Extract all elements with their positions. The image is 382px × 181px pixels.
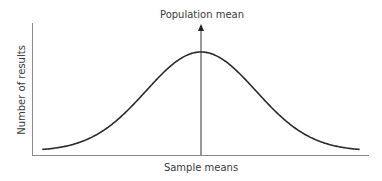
population-mean-label: Population mean (160, 9, 244, 20)
y-axis-label: Number of results (16, 45, 27, 135)
x-axis-label: Sample means (164, 162, 238, 173)
bell-curve-diagram: Population mean Sample means Number of r… (0, 0, 382, 181)
diagram-canvas: Population mean Sample means Number of r… (0, 0, 382, 181)
arrow-head-icon (198, 24, 204, 31)
